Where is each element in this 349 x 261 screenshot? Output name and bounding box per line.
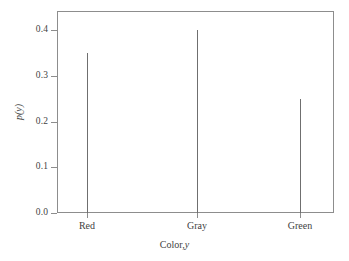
stem-bar [300, 99, 301, 213]
x-axis-tick-mark [300, 213, 301, 218]
x-axis-tick-label: Gray [162, 221, 232, 231]
x-axis-title-variable: y [185, 239, 189, 250]
x-axis-tick-mark [87, 213, 88, 218]
y-axis-tick-label: 0.0 [8, 208, 48, 218]
y-axis-tick-label: 0.3 [8, 71, 48, 81]
y-axis-tick-label: 0.2 [8, 117, 48, 127]
stem-bar [87, 53, 88, 213]
y-axis-tick-label: 0.4 [8, 25, 48, 35]
x-axis-title-text: Color, [160, 239, 185, 250]
x-axis-tick-label: Red [52, 221, 122, 231]
y-axis-tick-mark [51, 213, 57, 214]
plot-area [58, 12, 333, 213]
x-axis-tick-mark [197, 213, 198, 218]
stem-bar [197, 30, 198, 213]
chart-figure: p(y) 0.00.10.20.30.4 RedGrayGreen Color,… [0, 0, 349, 261]
x-axis-tick-label: Green [265, 221, 335, 231]
y-axis-tick-label: 0.1 [8, 162, 48, 172]
x-axis-title: Color,y [0, 240, 349, 250]
